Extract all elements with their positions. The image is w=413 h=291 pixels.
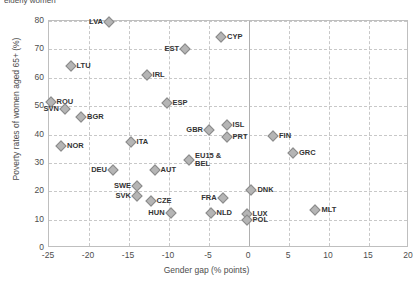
point-label: NOR xyxy=(67,142,84,150)
gridline-horizontal xyxy=(49,49,407,50)
diamond-marker xyxy=(145,196,156,207)
point-label: POL xyxy=(253,216,268,224)
point-label: AUT xyxy=(161,166,176,174)
point-label: FRA xyxy=(201,194,216,202)
point-label: GRC xyxy=(299,149,316,157)
point-label: EST xyxy=(164,45,179,53)
diamond-marker xyxy=(65,61,76,72)
y-tick-label: 70 xyxy=(2,43,44,53)
diamond-marker xyxy=(141,69,152,80)
y-tick-label: 20 xyxy=(2,185,44,195)
point-label: PRT xyxy=(233,133,248,141)
x-tick-label: -20 xyxy=(68,250,108,260)
point-label: HUN xyxy=(148,209,164,217)
y-tick-label: 60 xyxy=(2,72,44,82)
diamond-marker xyxy=(183,154,194,165)
x-tick-label: 5 xyxy=(268,250,308,260)
y-tick-label: 30 xyxy=(2,157,44,167)
diamond-marker xyxy=(267,130,278,141)
diamond-marker xyxy=(165,207,176,218)
diamond-marker xyxy=(179,44,190,55)
point-label: MLT xyxy=(321,206,336,214)
point-label: ESP xyxy=(173,99,188,107)
diamond-marker xyxy=(217,193,228,204)
x-axis-title: Gender gap (% points) xyxy=(0,265,413,275)
point-label: DNK xyxy=(257,186,273,194)
point-label: CYP xyxy=(227,33,242,41)
point-label: SWE xyxy=(114,182,131,190)
diamond-marker xyxy=(103,17,114,28)
point-label: FIN xyxy=(279,132,291,140)
diamond-marker xyxy=(221,119,232,130)
x-tick-label: 20 xyxy=(388,250,413,260)
point-label: ISL xyxy=(233,121,245,129)
gridline-vertical xyxy=(129,21,130,246)
gridline-horizontal xyxy=(49,191,407,192)
gridline-horizontal xyxy=(49,78,407,79)
point-label: GBR xyxy=(186,126,203,134)
x-tick-label: 10 xyxy=(308,250,348,260)
diamond-marker xyxy=(125,136,136,147)
x-tick-label: 0 xyxy=(228,250,268,260)
point-label: IRL xyxy=(153,71,165,79)
gridline-horizontal xyxy=(49,106,407,107)
point-label: DEU xyxy=(91,166,107,174)
point-label: NLD xyxy=(217,209,232,217)
x-tick-label: 15 xyxy=(348,250,388,260)
point-label: LVA xyxy=(89,18,103,26)
diamond-marker xyxy=(149,164,160,175)
gridline-horizontal xyxy=(49,163,407,164)
point-label: CZE xyxy=(157,197,172,205)
point-label: EU15 &BEL xyxy=(195,152,221,168)
plot-area: LVACYPESTLTUIRLROUESPSVNBGRISLGBRPRTFINN… xyxy=(48,20,408,247)
diamond-marker xyxy=(215,31,226,42)
point-label: BGR xyxy=(87,113,104,121)
x-tick-label: -10 xyxy=(148,250,188,260)
diamond-marker xyxy=(161,98,172,109)
diamond-marker xyxy=(75,112,86,123)
diamond-marker xyxy=(310,204,321,215)
gridline-vertical xyxy=(89,21,90,246)
point-label: SVK xyxy=(116,192,131,200)
x-tick-label: -25 xyxy=(28,250,68,260)
diamond-marker xyxy=(246,184,257,195)
point-label: SVN xyxy=(44,105,59,113)
y-tick-label: 40 xyxy=(2,129,44,139)
x-axis-ticks: -25-20-15-10-505101520 xyxy=(0,250,413,264)
y-tick-label: 50 xyxy=(2,100,44,110)
y-tick-label: 80 xyxy=(2,15,44,25)
diamond-marker xyxy=(107,164,118,175)
x-tick-label: -15 xyxy=(108,250,148,260)
gridline-horizontal xyxy=(49,220,407,221)
y-tick-label: 10 xyxy=(2,214,44,224)
point-label: ITA xyxy=(137,138,149,146)
gridline-vertical xyxy=(369,21,370,246)
diamond-marker xyxy=(221,132,232,143)
diamond-marker xyxy=(55,140,66,151)
x-tick-label: -5 xyxy=(188,250,228,260)
point-label: LTU xyxy=(77,62,91,70)
y-axis-ticks: 01020304050607080 xyxy=(0,0,44,291)
chart-root: elderly women Poverty rates of women age… xyxy=(0,0,413,291)
diamond-marker xyxy=(205,207,216,218)
